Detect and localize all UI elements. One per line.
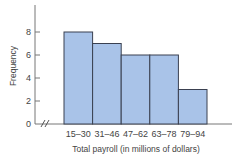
x-tick-label: 47–62 <box>123 129 148 139</box>
x-tick-label: 63–78 <box>152 129 177 139</box>
histogram-bar <box>121 55 150 124</box>
x-tick-label: 79–94 <box>180 129 205 139</box>
y-ticks: 02468 <box>26 27 40 129</box>
y-tick-label: 6 <box>26 50 31 60</box>
y-axis-title: Frequency <box>8 45 18 86</box>
histogram-bar <box>93 44 122 125</box>
x-tick-labels: 15–3031–4647–6263–7879–94 <box>66 129 205 139</box>
x-axis-title: Total payroll (in millions of dollars) <box>72 144 200 154</box>
y-tick-label: 2 <box>26 96 31 106</box>
y-tick-label: 4 <box>26 73 31 83</box>
histogram-bar <box>150 55 179 124</box>
histogram-bar <box>178 90 207 125</box>
histogram-chart: 02468 15–3031–4647–6263–7879–94 Frequenc… <box>0 0 244 158</box>
y-tick-label: 8 <box>26 27 31 37</box>
x-tick-label: 31–46 <box>94 129 119 139</box>
histogram-bar <box>64 32 93 124</box>
bars <box>64 32 207 124</box>
x-tick-label: 15–30 <box>66 129 91 139</box>
y-tick-label: 0 <box>26 119 31 129</box>
